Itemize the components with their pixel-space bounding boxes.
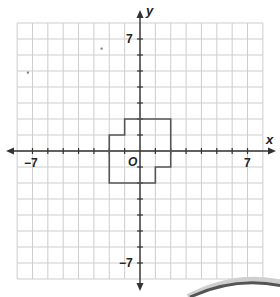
axes: [6, 10, 276, 291]
y-tick-label-neg7: −7: [119, 257, 133, 269]
stray-marks: [27, 48, 103, 74]
x-tick-label-7: 7: [244, 157, 251, 169]
y-axis-label: y: [146, 4, 153, 17]
x-tick-label-neg7: −7: [24, 157, 38, 169]
coordinate-plane: [0, 0, 280, 297]
origin-label: O: [128, 156, 137, 168]
y-tick-label-7: 7: [126, 33, 133, 45]
x-axis-label: x: [266, 133, 273, 146]
page-curl-arc: [188, 280, 280, 297]
